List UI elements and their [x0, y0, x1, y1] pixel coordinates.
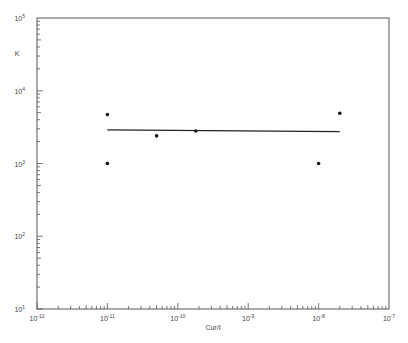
- fit-line: [107, 130, 339, 132]
- y-axis-label: K: [15, 50, 20, 57]
- data-series: [106, 111, 342, 165]
- y-axis-tick-labels: 101102103104105: [14, 13, 25, 313]
- y-tick-label: 102: [14, 231, 25, 240]
- y-tick-label: 101: [14, 304, 25, 313]
- data-point: [317, 162, 321, 166]
- plot-frame: [37, 18, 389, 309]
- y-tick-label: 105: [14, 13, 25, 22]
- plot-border: [37, 18, 389, 309]
- data-point: [106, 162, 110, 166]
- x-tick-label: 10-12: [29, 313, 44, 322]
- x-tick-label: 10-7: [383, 313, 395, 322]
- y-tick-label: 103: [14, 159, 25, 168]
- x-axis-label: Cur/I: [205, 324, 220, 331]
- y-tick-label: 104: [14, 86, 25, 95]
- data-point: [106, 113, 110, 117]
- data-point: [155, 134, 159, 138]
- x-axis-ticks: [37, 303, 386, 309]
- x-tick-label: 10-11: [100, 313, 115, 322]
- x-tick-label: 10-9: [242, 313, 254, 322]
- y-axis-ticks: [37, 21, 43, 309]
- data-point: [338, 111, 342, 115]
- x-tick-label: 10-10: [170, 313, 185, 322]
- x-tick-label: 10-8: [312, 313, 324, 322]
- x-axis-tick-labels: 10-1210-1110-1010-910-810-7: [29, 313, 395, 322]
- chart: 10-1210-1110-1010-910-810-7 101102103104…: [0, 0, 408, 343]
